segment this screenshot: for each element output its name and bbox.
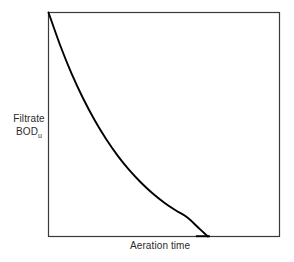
- figure-container: Filtrate BODu Aeration time: [0, 0, 294, 262]
- y-axis-label: Filtrate BODu: [12, 113, 46, 138]
- y-axis-label-line1: Filtrate: [12, 113, 46, 125]
- y-axis-label-line2: BODu: [12, 126, 46, 138]
- y-axis-label-text: BOD: [16, 126, 38, 137]
- x-axis-label: Aeration time: [130, 240, 190, 252]
- y-axis-label-subscript: u: [38, 132, 42, 139]
